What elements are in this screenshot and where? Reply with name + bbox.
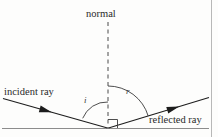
angle-of-incidence-label: i	[84, 96, 87, 105]
incident-ray-line	[3, 99, 108, 129]
reflected-ray-arrowhead	[166, 103, 180, 113]
angle-of-reflection-label: r	[126, 87, 130, 96]
incident-ray-label: incident ray	[4, 87, 54, 98]
reflection-diagram: normal incident ray reflected ray i r	[0, 0, 218, 137]
reflected-ray-label: reflected ray	[149, 115, 202, 126]
normal-label: normal	[86, 9, 116, 20]
incident-ray-arrowhead	[39, 106, 53, 116]
